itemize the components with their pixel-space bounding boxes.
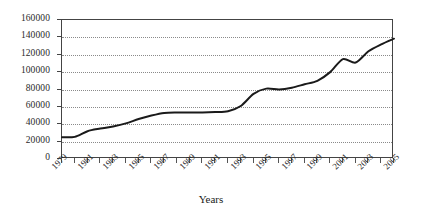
line-chart: 1600001400001200001000008000060000400002… [0,0,422,216]
x-tick-label: 1991 [203,152,222,171]
x-tick-label: 1989 [178,152,197,171]
x-tick-label: 1987 [152,152,171,171]
x-tick-label: 2005 [382,152,401,171]
x-tick-mark [227,158,228,163]
x-tick-mark [99,158,100,163]
x-tick-label: 1983 [101,152,120,171]
x-tick-mark [176,158,177,163]
x-tick-label: 2001 [331,152,350,171]
x-tick-mark [278,158,279,163]
x-tick-mark [201,158,202,163]
x-tick-label: 1999 [305,152,324,171]
x-tick-label: 1997 [280,152,299,171]
x-axis: 1979198119831985198719891991199319951997… [0,0,422,216]
x-tick-label: 1979 [50,152,69,171]
x-tick-mark [329,158,330,163]
x-tick-label: 1985 [127,152,146,171]
x-axis-title: Years [0,193,422,205]
x-tick-label: 2003 [356,152,375,171]
x-tick-label: 1993 [229,152,248,171]
x-tick-mark [150,158,151,163]
x-tick-mark [125,158,126,163]
x-tick-label: 1995 [254,152,273,171]
x-tick-label: 1981 [76,152,95,171]
x-tick-mark [380,158,381,163]
x-tick-mark [74,158,75,163]
